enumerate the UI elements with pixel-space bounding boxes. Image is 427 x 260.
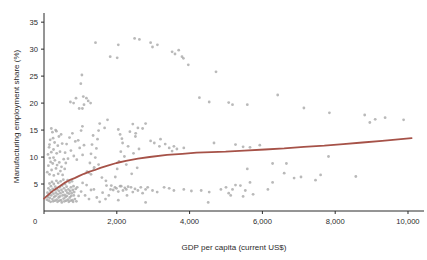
data-point [65,143,68,146]
data-point [79,82,82,85]
data-point [130,172,133,175]
data-point [127,185,130,188]
data-point [50,151,53,154]
data-point [158,145,161,148]
data-point [59,180,62,183]
data-point [51,131,54,134]
data-point [50,185,53,188]
data-point [122,189,125,192]
data-point [267,188,270,191]
data-point [137,189,140,192]
data-point [171,150,174,153]
x-tick-label: 10,000 [396,217,419,226]
data-point [176,148,179,151]
data-point [246,103,249,106]
data-point [60,133,63,136]
data-point [151,189,154,192]
data-point [68,192,71,195]
data-point [173,145,176,148]
data-point [109,55,112,58]
data-point [87,100,90,103]
data-point [92,134,95,137]
y-tick-label: 35 [30,18,38,27]
data-point [101,191,104,194]
y-axis-title: Manufacturing employment share (%) [12,37,21,197]
data-point [132,152,135,155]
data-point [283,172,286,175]
data-point [48,182,51,185]
data-point [225,186,228,189]
data-point [117,190,120,193]
data-point [63,168,66,171]
data-point [50,194,53,197]
data-point [70,195,73,198]
data-point [47,153,50,156]
data-point [131,191,134,194]
data-point [56,164,59,167]
data-point [208,191,211,194]
data-point [70,192,73,195]
data-point [59,192,62,195]
data-point [52,174,55,177]
data-point [163,186,166,189]
data-point [328,111,331,114]
data-point [144,201,147,204]
data-point [98,122,101,125]
data-point [200,189,203,192]
data-point [159,138,162,141]
data-point [402,118,405,121]
data-point [82,95,85,98]
data-point [149,140,152,143]
data-point [303,107,306,110]
data-point [46,171,49,174]
data-point [319,174,322,177]
data-point [56,144,59,147]
x-tick-label: 6,000 [253,217,272,226]
data-point [271,181,274,184]
data-point [227,101,230,104]
data-point [61,174,64,177]
data-point [105,179,108,182]
data-point [134,132,137,135]
data-point [110,184,113,187]
data-point [50,127,53,130]
data-point [47,164,50,167]
data-point [246,168,249,171]
data-point [117,199,120,202]
data-point [52,137,55,140]
y-tick-label: 20 [30,99,38,108]
x-tick-label: 4,000 [180,217,199,226]
data-point [81,125,84,128]
data-point [64,162,67,165]
y-tick-label: 15 [30,126,38,135]
data-point [173,189,176,192]
data-point [69,101,72,104]
data-point [56,193,59,196]
data-point [130,186,133,189]
data-point [48,197,51,200]
data-point [81,107,84,110]
data-point [144,122,147,125]
data-point [144,188,147,191]
data-point [78,147,81,150]
data-point [85,184,88,187]
data-point [258,144,261,147]
data-point [174,53,177,56]
data-point [91,143,94,146]
data-point [129,130,132,133]
data-point [93,188,96,191]
data-point [182,188,185,191]
data-point [65,185,68,188]
scatter-chart: 510152025303502,0004,0006,0008,00010,000 [0,0,427,260]
data-point [57,172,60,175]
data-point [83,144,86,147]
data-point [120,185,123,188]
data-point [153,142,156,145]
data-point [94,41,97,44]
data-point [249,181,252,184]
data-point [81,74,84,77]
data-point [72,185,75,188]
data-point [75,97,78,100]
x-tick-label: 8,000 [326,217,345,226]
x-tick-label: 0 [33,217,37,226]
